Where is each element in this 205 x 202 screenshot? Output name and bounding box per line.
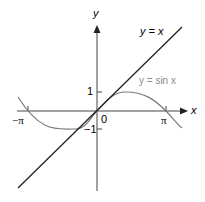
- y-axis-label: y: [93, 8, 99, 19]
- x-axis-label: x: [191, 105, 197, 116]
- line-label: y = x: [140, 26, 164, 37]
- tick-label-pi: π: [161, 115, 167, 126]
- y-axis-arrow-icon: [94, 25, 101, 33]
- origin-label: 0: [101, 114, 107, 125]
- plot-canvas: [0, 0, 205, 202]
- x-axis-arrow-icon: [180, 108, 188, 115]
- tick-label-one: 1: [87, 86, 93, 97]
- tick-label-neg-pi: −π: [12, 115, 24, 126]
- sine-label: y = sin x: [139, 76, 176, 86]
- identity-line: [18, 27, 182, 188]
- figure: y x y = x y = sin x 1 −1 0 −π π: [0, 0, 205, 202]
- tick-label-neg-one: −1: [84, 124, 97, 135]
